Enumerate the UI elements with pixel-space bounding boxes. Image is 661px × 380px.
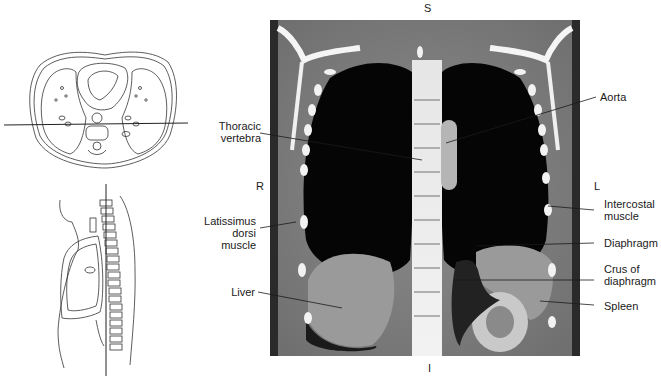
sagittal-reference-diagram [0, 0, 661, 380]
label-line: Spleen [604, 300, 638, 312]
label-line: diaphragm [604, 275, 656, 287]
orientation-inferior: I [428, 362, 431, 374]
label-line: vertebra [219, 132, 261, 144]
leader-diaphragm [476, 243, 594, 246]
orientation-right: R [256, 180, 264, 192]
label-line: Diaphragm [604, 237, 658, 249]
axial-reference-diagram [0, 0, 661, 380]
leader-liver [258, 292, 342, 308]
label-latissimus-dorsi-muscle: Latissimus dorsi muscle [204, 215, 256, 251]
label-line: Latissimus [204, 215, 256, 227]
label-crus-of-diaphragm: Crus of diaphragm [604, 263, 656, 287]
label-line: muscle [604, 210, 655, 222]
coronal-ct-image [0, 0, 661, 380]
label-spleen: Spleen [604, 300, 638, 312]
axial-plane-line [4, 123, 188, 125]
leader-latissimus [260, 222, 296, 228]
label-aorta: Aorta [600, 91, 626, 103]
label-line: dorsi [204, 227, 256, 239]
label-line: Aorta [600, 91, 626, 103]
leader-spleen [540, 301, 594, 305]
leader-aorta [446, 97, 596, 143]
orientation-left: L [594, 180, 600, 192]
label-line: Crus of [604, 263, 656, 275]
label-line: Thoracic [219, 120, 261, 132]
label-intercostal-muscle: Intercostal muscle [604, 198, 655, 222]
label-line: Liver [231, 286, 255, 298]
leader-intercostal [548, 206, 594, 210]
label-liver: Liver [231, 286, 255, 298]
label-thoracic-vertebra: Thoracic vertebra [219, 120, 261, 144]
label-line: muscle [204, 239, 256, 251]
orientation-superior: S [424, 2, 431, 14]
leader-thoracic-vertebra [260, 133, 422, 160]
leader-lines [0, 0, 661, 380]
label-diaphragm: Diaphragm [604, 237, 658, 249]
label-line: Intercostal [604, 198, 655, 210]
